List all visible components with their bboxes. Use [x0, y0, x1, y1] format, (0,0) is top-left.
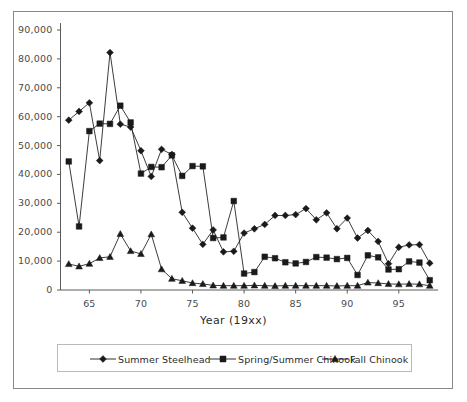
series-spring-summer-chinook — [66, 103, 433, 283]
chart-axes — [61, 23, 439, 290]
legend-item-summer-steelhead[interactable]: Summer Steelhead — [88, 351, 211, 367]
chart-figure: 010,00020,00030,00040,00050,00060,00070,… — [0, 0, 467, 402]
data-point — [323, 209, 330, 216]
data-point — [354, 235, 361, 242]
x-axis-tick-label: 80 — [236, 298, 252, 309]
data-point — [251, 225, 258, 232]
data-point — [231, 198, 237, 204]
square-marker-icon — [208, 352, 238, 366]
data-point — [344, 255, 350, 261]
data-point — [66, 159, 72, 165]
data-point — [272, 255, 278, 261]
data-point — [406, 281, 413, 287]
y-axis-tick-label: 80,000 — [18, 53, 52, 64]
data-point — [65, 261, 72, 267]
data-point — [169, 153, 175, 159]
x-axis-tick-label: 90 — [339, 298, 355, 309]
data-point — [190, 163, 196, 169]
data-point — [303, 259, 309, 265]
data-point — [86, 260, 93, 266]
data-point — [220, 248, 227, 255]
data-point — [375, 255, 381, 261]
data-point — [283, 259, 289, 265]
data-point — [107, 121, 113, 127]
data-point — [406, 242, 413, 249]
y-axis-tick-label: 90,000 — [18, 24, 52, 35]
data-point — [417, 260, 423, 266]
data-point — [199, 241, 206, 248]
data-point — [127, 248, 134, 254]
data-point — [159, 164, 165, 170]
data-point — [324, 255, 330, 261]
legend-item-fall-chinook[interactable]: Fall Chinook — [320, 351, 408, 367]
y-axis-tick-label: 10,000 — [18, 255, 52, 266]
chart-legend: Summer SteelheadSpring/Summer ChinookFal… — [57, 344, 412, 372]
x-axis-title: Year (19xx) — [0, 314, 467, 327]
y-axis-tick-label: 50,000 — [18, 140, 52, 151]
data-point — [241, 230, 248, 237]
legend-item-label: Summer Steelhead — [118, 354, 211, 365]
data-point — [293, 261, 299, 267]
x-axis-tick-label: 65 — [81, 298, 97, 309]
data-point — [200, 164, 206, 170]
data-point — [406, 259, 412, 265]
data-point — [158, 146, 165, 153]
data-point — [230, 248, 237, 255]
y-axis-tick-label: 30,000 — [18, 197, 52, 208]
x-axis-tick-label: 85 — [288, 298, 304, 309]
triangle-marker-icon — [320, 352, 350, 366]
y-axis-tick-label: 0 — [46, 284, 52, 295]
data-point — [416, 241, 423, 248]
data-point — [148, 164, 154, 170]
data-point — [96, 157, 103, 164]
legend-item-label: Fall Chinook — [350, 354, 408, 365]
data-point — [262, 254, 268, 260]
x-axis-tick-label: 75 — [185, 298, 201, 309]
data-point — [252, 269, 258, 275]
data-point — [118, 103, 124, 109]
diamond-marker-icon — [88, 352, 118, 366]
y-axis-tick-label: 40,000 — [18, 168, 52, 179]
data-point — [313, 254, 319, 260]
y-axis-tick-label: 70,000 — [18, 82, 52, 93]
data-point — [396, 266, 402, 272]
data-point — [210, 227, 217, 234]
data-point — [138, 171, 144, 177]
data-point — [210, 235, 216, 241]
x-axis-tick-label: 70 — [133, 298, 149, 309]
data-point — [107, 253, 114, 259]
data-point — [117, 121, 124, 128]
data-point — [355, 272, 361, 278]
y-axis-tick-label: 60,000 — [18, 111, 52, 122]
data-point — [87, 128, 93, 134]
data-point — [426, 260, 433, 267]
data-point — [179, 209, 186, 216]
data-point — [158, 266, 165, 272]
data-point — [138, 147, 145, 154]
y-axis-tick-label: 20,000 — [18, 226, 52, 237]
data-point — [179, 173, 185, 179]
data-point — [282, 212, 289, 219]
data-point — [148, 173, 155, 180]
data-point — [365, 279, 372, 285]
data-point — [107, 49, 114, 56]
line-chart-plot — [0, 0, 467, 402]
data-point — [365, 253, 371, 259]
data-point — [395, 244, 402, 251]
data-point — [386, 267, 392, 273]
data-point — [76, 224, 82, 230]
data-point — [189, 225, 196, 232]
data-point — [221, 235, 227, 241]
data-point — [128, 120, 134, 126]
x-axis-tick-label: 95 — [391, 298, 407, 309]
data-point — [334, 256, 340, 262]
data-point — [292, 211, 299, 218]
data-point — [97, 121, 103, 127]
data-point — [148, 231, 155, 237]
data-point — [251, 282, 258, 288]
data-point — [241, 271, 247, 277]
data-point — [117, 231, 124, 237]
